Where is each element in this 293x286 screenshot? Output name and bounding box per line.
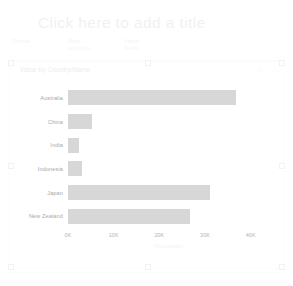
bar[interactable]	[68, 90, 236, 105]
report-canvas[interactable]: Click here to add a title Format Data An…	[0, 0, 293, 286]
toolbar-group-format[interactable]: Format	[12, 38, 50, 45]
visualizations-toolbar[interactable]: Format Data Analytics Visual Fields	[12, 38, 262, 58]
y-axis-tick-label: China	[10, 110, 68, 134]
y-axis-tick-label: Japan	[10, 181, 68, 205]
toolbar-group-data-label: Data	[68, 38, 106, 44]
toolbar-group-data-sub: Analytics	[68, 45, 106, 51]
toolbar-group-visual-label: Visual	[124, 38, 162, 44]
page-footer-divider	[8, 272, 285, 273]
visual-header: Value by Country/Name ⤡ ⋯	[10, 62, 283, 80]
chart-title: Value by Country/Name	[20, 66, 91, 73]
y-axis-category-labels: AustraliaChinaIndiaIndonesiaJapanNew Zea…	[10, 86, 68, 228]
toolbar-group-visual[interactable]: Visual Fields	[124, 38, 162, 51]
x-axis-tick-label: 0K	[65, 232, 72, 238]
y-axis-tick-label: India	[10, 133, 68, 157]
x-axis-units-label: (Thousands)	[68, 243, 269, 249]
bar-series	[68, 86, 269, 228]
x-axis-tick-label: 10K	[109, 232, 119, 238]
y-axis-tick-label: New Zealand	[10, 204, 68, 228]
more-options-icon[interactable]: ⋯	[267, 66, 277, 75]
toolbar-group-format-label: Format	[12, 38, 50, 44]
bar[interactable]	[68, 138, 79, 153]
bar-row	[68, 181, 269, 205]
toolbar-group-data[interactable]: Data Analytics	[68, 38, 106, 51]
toolbar-group-visual-sub: Fields	[124, 45, 162, 51]
x-axis-ticks: 0K10K20K30K40K	[68, 230, 269, 242]
bar-chart-visual[interactable]: Value by Country/Name ⤡ ⋯ AustraliaChina…	[10, 62, 283, 268]
bar-row	[68, 204, 269, 228]
bar-row	[68, 133, 269, 157]
x-axis-tick-label: 30K	[200, 232, 210, 238]
bar[interactable]	[68, 114, 92, 129]
bar-row	[68, 110, 269, 134]
bar[interactable]	[68, 161, 82, 176]
x-axis-tick-label: 40K	[246, 232, 256, 238]
bar-row	[68, 157, 269, 181]
y-axis-tick-label: Indonesia	[10, 157, 68, 181]
report-title-placeholder[interactable]: Click here to add a title	[38, 12, 258, 34]
focus-mode-icon[interactable]: ⤡	[257, 66, 266, 75]
plot-area: AustraliaChinaIndiaIndonesiaJapanNew Zea…	[10, 80, 283, 268]
bar[interactable]	[68, 185, 210, 200]
bar-row	[68, 86, 269, 110]
y-axis-tick-label: Australia	[10, 86, 68, 110]
bar[interactable]	[68, 209, 190, 224]
x-axis-tick-label: 20K	[154, 232, 164, 238]
